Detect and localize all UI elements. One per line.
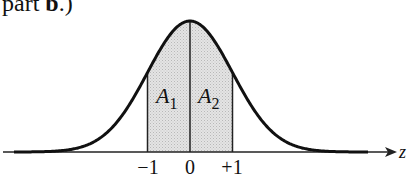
axis-label-z: z [398, 142, 406, 162]
tick-label-minus-one: −1 [137, 156, 158, 178]
normal-curve-diagram: z A1 A2 −1 0 +1 [0, 0, 410, 178]
tick-label-plus-one: +1 [221, 156, 242, 178]
tick-label-zero: 0 [185, 156, 195, 178]
